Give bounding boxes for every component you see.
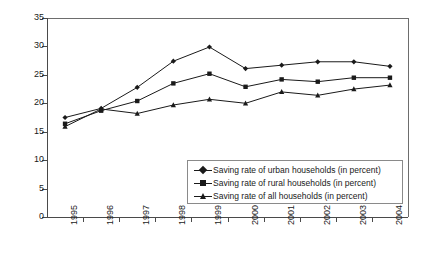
square-marker-icon (193, 178, 213, 189)
data-point-marker (352, 76, 356, 80)
data-point-marker (315, 59, 320, 64)
chart-legend: Saving rate of urban households (in perc… (187, 160, 403, 204)
data-point-marker (171, 81, 175, 85)
legend-item-3: Saving rate of all households (in percen… (193, 190, 397, 202)
legend-item-1: Saving rate of urban households (in perc… (193, 164, 397, 176)
series-3 (62, 82, 392, 129)
data-point-marker (279, 63, 284, 68)
data-point-marker (388, 76, 392, 80)
data-point-marker (207, 97, 212, 102)
data-point-marker (207, 44, 212, 49)
legend-label: Saving rate of all households (in percen… (213, 191, 368, 202)
legend-symbol (199, 165, 207, 173)
diamond-marker-icon (193, 165, 213, 176)
triangle-marker-icon (193, 191, 213, 202)
data-point-marker (243, 66, 248, 71)
data-point-marker (351, 59, 356, 64)
data-point-marker (316, 79, 320, 83)
series-2 (63, 72, 392, 126)
data-point-marker (387, 64, 392, 69)
series-1 (62, 44, 392, 120)
data-point-marker (243, 85, 247, 89)
legend-label: Saving rate of rural households (in perc… (213, 178, 376, 189)
legend-label: Saving rate of urban households (in perc… (213, 165, 381, 176)
plot-series-area (0, 0, 425, 266)
data-point-marker (62, 115, 67, 120)
legend-item-2: Saving rate of rural households (in perc… (193, 177, 397, 189)
data-point-marker (135, 99, 139, 103)
line-chart: 05101520253035 1995199619971998199920002… (0, 0, 425, 266)
data-point-marker (207, 72, 211, 76)
legend-symbol (200, 180, 206, 186)
data-point-marker (279, 77, 283, 81)
legend-symbol (200, 193, 206, 199)
